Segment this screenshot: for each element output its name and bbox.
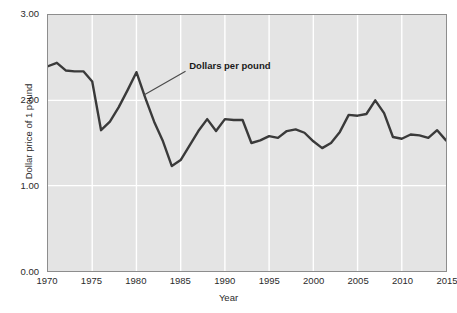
annotation-leader-line (144, 71, 186, 95)
gridlines (48, 15, 446, 271)
plot-svg (48, 15, 446, 271)
x-tick-label: 2005 (348, 275, 369, 286)
x-tick-label: 1975 (81, 275, 102, 286)
x-axis-title: Year (0, 292, 457, 303)
x-tick-label: 1995 (259, 275, 280, 286)
x-tick-label: 1970 (36, 275, 57, 286)
x-tick-label: 1985 (170, 275, 191, 286)
x-tick-label: 1990 (214, 275, 235, 286)
data-line-0 (48, 63, 446, 166)
annotation-leader-lines (144, 71, 186, 95)
x-tick-label: 2000 (303, 275, 324, 286)
x-tick-label: 1980 (125, 275, 146, 286)
x-tick-label: 2015 (436, 275, 457, 286)
y-axis-title: Dollar price of 1 pound (23, 52, 34, 212)
series-annotation-label: Dollars per pound (189, 60, 270, 71)
chart-figure: 3.002.001.000.00 Dollar price of 1 pound… (0, 0, 457, 313)
x-tick-label: 2010 (392, 275, 413, 286)
x-axis-tick-labels: 1970197519801985199019952000200520102015 (0, 275, 457, 291)
plot-area (47, 14, 447, 272)
data-series-group (48, 63, 446, 166)
y-tick-label: 3.00 (21, 9, 40, 19)
